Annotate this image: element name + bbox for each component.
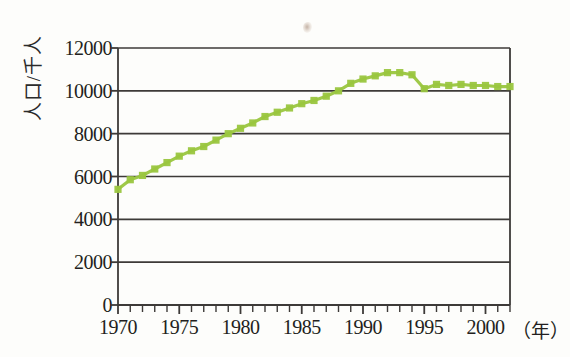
- x-tick-label: 1970: [99, 316, 137, 339]
- x-tick-label: 2000: [467, 316, 505, 339]
- chart-figure: 人口/千人 020004000600080001000012000 197019…: [0, 0, 570, 357]
- x-axis-unit-label: （年）: [512, 316, 569, 343]
- x-tick-label: 1980: [222, 316, 260, 339]
- x-axis-tick-labels: 1970197519801985199019952000（年）: [0, 0, 570, 357]
- x-tick-label: 1985: [283, 316, 321, 339]
- x-tick-label: 1995: [405, 316, 443, 339]
- x-tick-label: 1990: [344, 316, 382, 339]
- x-tick-label: 1975: [160, 316, 198, 339]
